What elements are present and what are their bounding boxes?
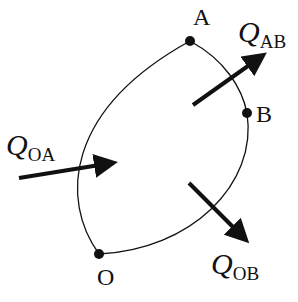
point-O (94, 249, 104, 259)
point-A (185, 36, 195, 46)
label-QOA-symbol: Q (6, 128, 28, 161)
arrow-QOB (189, 183, 245, 239)
label-QOA: QOA (6, 128, 55, 165)
label-QOB: QOB (211, 247, 259, 284)
label-O: O (97, 264, 114, 290)
label-QAB-subscript: AB (260, 31, 286, 52)
point-B (242, 108, 252, 118)
path-B-O (99, 113, 248, 254)
label-QOB-subscript: OB (233, 263, 259, 284)
path-O-A (77, 41, 190, 254)
label-B: B (256, 101, 272, 127)
label-QOB-symbol: Q (211, 247, 233, 280)
label-QAB-symbol: Q (238, 15, 260, 48)
label-QAB: QAB (238, 15, 286, 52)
cycle-diagram: A B O QAB QOA QOB (0, 0, 298, 302)
arrow-QAB (193, 56, 262, 105)
arrow-QOA (19, 163, 112, 178)
label-QOA-subscript: OA (28, 144, 56, 165)
label-A: A (193, 4, 211, 30)
